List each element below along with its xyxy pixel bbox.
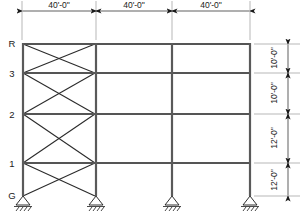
right-dimension-story-2: 12'-0"	[269, 127, 279, 149]
dimension-extension-lines	[22, 1, 300, 196]
top-dimension-bay-1: 40'-0"	[48, 0, 70, 10]
braced-frame-elevation-diagram: 40'-0" 40'-0" 40'-0" 10'-0" 10'-0" 12'-0…	[0, 0, 304, 221]
right-dimension-story-1: 12'-0"	[269, 169, 279, 191]
level-label-1: 1	[9, 158, 14, 169]
level-labels: R 3 2 1 G	[8, 38, 15, 201]
level-label-ground: G	[8, 190, 15, 201]
pinned-support-A	[14, 196, 32, 211]
top-dimension-chain: 40'-0" 40'-0" 40'-0"	[23, 0, 249, 11]
x-bracing-left-bay	[23, 44, 95, 196]
support-group	[14, 196, 259, 211]
right-dimension-chain: 10'-0" 10'-0" 12'-0" 12'-0"	[269, 45, 288, 195]
right-dimension-story-4: 10'-0"	[269, 47, 279, 69]
level-label-3: 3	[9, 68, 14, 79]
right-dimension-story-3: 10'-0"	[269, 82, 279, 104]
top-dimension-bay-3: 40'-0"	[200, 0, 222, 10]
level-label-2: 2	[9, 109, 14, 120]
level-label-roof: R	[9, 38, 16, 49]
frame-columns	[23, 43, 250, 196]
pinned-support-D	[241, 196, 259, 211]
pinned-support-C	[163, 196, 181, 211]
pinned-support-B	[87, 196, 105, 211]
top-dimension-bay-2: 40'-0"	[123, 0, 145, 10]
frame-beams	[23, 44, 250, 163]
